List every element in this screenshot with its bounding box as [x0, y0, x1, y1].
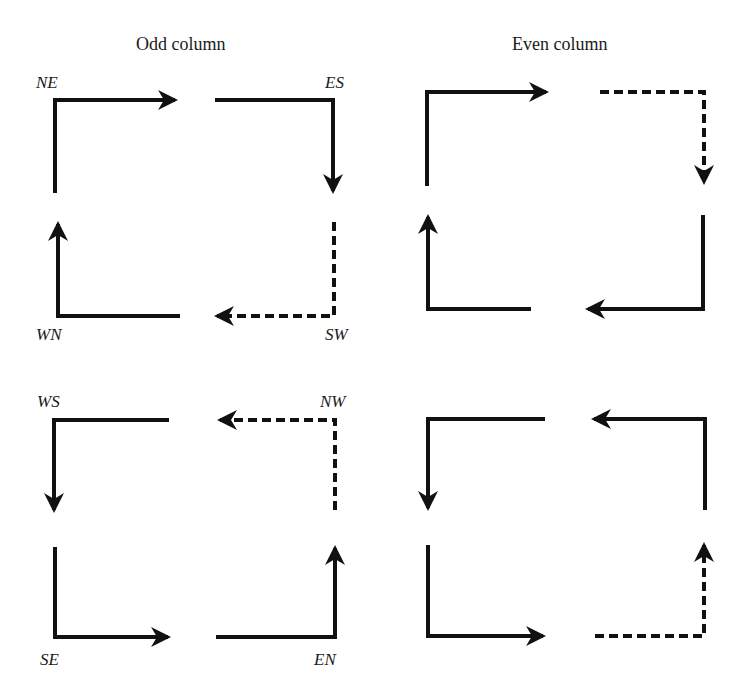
even-low-left-arrow	[428, 419, 545, 508]
label-se: SE	[40, 650, 59, 670]
label-nw: NW	[320, 392, 346, 412]
even-low-right-arrow	[594, 419, 705, 510]
odd-wn-arrow	[58, 224, 180, 316]
even-top-left-arrow	[427, 92, 546, 186]
odd-nw-arrow	[220, 420, 335, 510]
label-es: ES	[325, 73, 344, 93]
even-bottom-left-arrow	[428, 545, 543, 636]
even-mid-left-arrow	[428, 217, 531, 309]
odd-ne-arrow	[55, 100, 175, 193]
odd-en-arrow	[216, 548, 335, 637]
label-sw: SW	[325, 325, 348, 345]
even-column-title: Even column	[512, 34, 607, 55]
odd-sw-arrow	[217, 222, 334, 316]
label-ne: NE	[36, 73, 58, 93]
odd-ws-arrow	[54, 420, 169, 510]
label-wn: WN	[36, 325, 62, 345]
odd-es-arrow	[215, 100, 333, 191]
even-top-right-arrow	[600, 92, 704, 182]
turn-diagram	[0, 0, 751, 697]
label-ws: WS	[37, 392, 60, 412]
label-en: EN	[314, 650, 336, 670]
odd-column-title: Odd column	[136, 34, 226, 55]
odd-se-arrow	[55, 547, 168, 637]
even-bottom-right-arrow	[595, 545, 704, 636]
even-mid-right-arrow	[588, 215, 703, 309]
